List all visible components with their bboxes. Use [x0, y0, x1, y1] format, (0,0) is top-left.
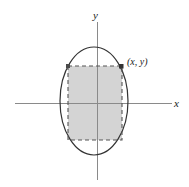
y-axis-label: y: [93, 9, 98, 21]
x-axis-label: x: [174, 97, 179, 109]
point-coordinate-label: (x, y): [127, 56, 148, 67]
point-marker: [119, 64, 124, 69]
point-marker-left: [66, 64, 70, 68]
figure-canvas: y x (x, y): [0, 0, 189, 187]
ellipse-rectangle-diagram: [0, 0, 189, 187]
